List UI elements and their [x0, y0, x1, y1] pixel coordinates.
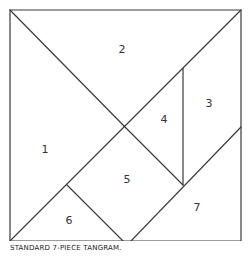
edge-diagonal-left [10, 10, 124, 126]
piece-label-3: 3 [206, 97, 213, 110]
edge-piece5-right [124, 126, 183, 185]
piece-label-6: 6 [66, 214, 73, 227]
piece-label-7: 7 [194, 201, 201, 214]
piece-label-5: 5 [124, 173, 131, 186]
tangram-diagram: 1 2 3 4 5 6 7 [0, 0, 249, 241]
edge-piece6-right [67, 185, 123, 241]
piece-label-4: 4 [161, 113, 168, 126]
figure-caption: STANDARD 7-PIECE TANGRAM. [10, 244, 122, 252]
piece-label-2: 2 [119, 43, 126, 56]
edge-piece7 [131, 127, 241, 241]
piece-label-1: 1 [42, 143, 49, 156]
